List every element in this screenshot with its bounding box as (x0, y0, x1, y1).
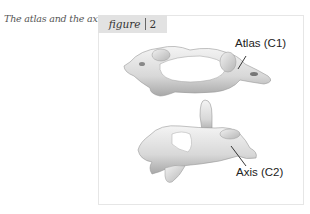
axis-label: Axis (C2) (236, 166, 283, 178)
atlas-label: Atlas (C1) (235, 37, 286, 49)
atlas-bone (124, 46, 271, 96)
vertebrae-illustration (0, 0, 310, 214)
